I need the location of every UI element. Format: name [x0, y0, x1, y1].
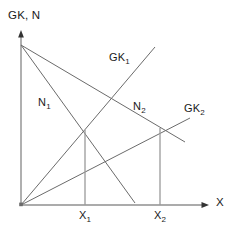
curve-label-n2: N2: [133, 100, 146, 115]
curve-label-gk2: GK2: [184, 102, 205, 117]
gk-curves-group: [21, 47, 190, 205]
curve-label-gk1-sub: 1: [125, 57, 130, 66]
diagram-canvas: [0, 0, 236, 236]
x-axis-title: X: [216, 196, 224, 208]
curve-label-n1-sub: 1: [46, 102, 51, 111]
curve-label-gk1-base: GK: [109, 51, 125, 63]
curve-label-gk2-sub: 2: [200, 108, 205, 117]
curve-n2: [21, 45, 185, 142]
tick-label-x2-sub: 2: [162, 215, 167, 224]
curve-label-gk1: GK1: [109, 51, 130, 66]
curve-label-n1-base: N: [38, 96, 46, 108]
curve-gk1: [21, 47, 155, 205]
curve-label-n2-sub: 2: [141, 106, 146, 115]
x-axis-arrowhead: [202, 202, 210, 208]
y-axis-title: GK, N: [8, 9, 40, 21]
curve-n1: [21, 45, 135, 203]
tick-label-x1-base: X: [79, 209, 87, 221]
tick-label-x2-base: X: [154, 209, 162, 221]
tick-label-x2: X2: [154, 209, 166, 224]
curve-label-gk2-base: GK: [184, 102, 200, 114]
tick-label-x1: X1: [79, 209, 91, 224]
curve-label-n1: N1: [38, 96, 51, 111]
curve-label-n2-base: N: [133, 100, 141, 112]
curve-gk2: [21, 118, 190, 205]
y-axis-arrowhead: [18, 30, 24, 38]
tick-label-x1-sub: 1: [87, 215, 92, 224]
economic-diagram-figure: GK, N X N1 GK1 N2 GK2 X1 X2: [0, 0, 236, 236]
